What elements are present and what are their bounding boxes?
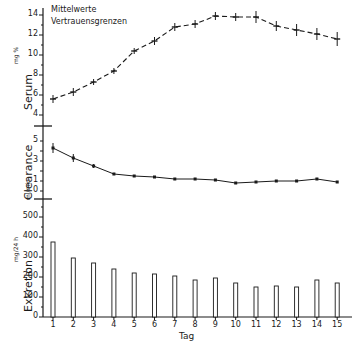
x-tick-label: 14 (309, 320, 325, 329)
exkretion-bar (295, 287, 299, 317)
x-tick-label: 9 (207, 320, 223, 329)
y-tick-label: 400 (16, 231, 38, 240)
serum-line (53, 16, 337, 99)
legend-means: Mittelwerte (51, 4, 127, 16)
exkretion-bar (51, 242, 55, 317)
y-tick-label: 12 (16, 29, 38, 38)
y-tick-label: 100 (16, 291, 38, 300)
legend: Mittelwerte Vertrauensgrenzen (51, 4, 127, 28)
exkretion-bar (254, 287, 258, 317)
y-tick-label: 300 (16, 251, 38, 260)
legend-confidence-limits: Vertrauensgrenzen (51, 16, 127, 28)
y-tick-label: 200 (16, 271, 38, 280)
x-tick-label: 3 (86, 320, 102, 329)
exkretion-bar (71, 258, 75, 317)
y-tick-label: 5 (16, 135, 38, 144)
exkretion-bar (153, 274, 157, 317)
x-tick-label: 8 (187, 320, 203, 329)
exkretion-bar (315, 280, 319, 317)
y-tick-label: 3 (16, 155, 38, 164)
y-tick-label: 0 (16, 311, 38, 320)
y-tick-label: 10 (16, 49, 38, 58)
exkretion-bar (112, 269, 116, 317)
x-tick-label: 15 (329, 320, 345, 329)
x-tick-label: 5 (126, 320, 142, 329)
x-tick-label: 1 (45, 320, 61, 329)
chart-canvas (0, 0, 357, 348)
y-tick-label: 500 (16, 211, 38, 220)
y-tick-label: 4 (16, 109, 38, 118)
x-tick-label: 6 (147, 320, 163, 329)
y-tick-label: 6 (16, 89, 38, 98)
exkretion-bar (274, 286, 278, 317)
x-tick-label: 12 (268, 320, 284, 329)
y-tick-label: 8 (16, 69, 38, 78)
x-tick-label: 7 (167, 320, 183, 329)
x-tick-label: 10 (228, 320, 244, 329)
exkretion-bar (92, 263, 96, 317)
x-axis-label: Tag (179, 331, 194, 341)
x-tick-label: 2 (65, 320, 81, 329)
exkretion-bar (193, 280, 197, 317)
y-tick-label: 14 (16, 9, 38, 18)
exkretion-bar (173, 276, 177, 317)
y-tick-label: 1 (16, 175, 38, 184)
exkretion-axis-label: Exkretion (22, 260, 35, 312)
exkretion-bar (213, 278, 217, 317)
exkretion-bar (335, 283, 339, 317)
exkretion-bar (132, 273, 136, 317)
exkretion-bar (234, 283, 238, 317)
x-tick-label: 11 (248, 320, 264, 329)
x-tick-label: 4 (106, 320, 122, 329)
x-tick-label: 13 (289, 320, 305, 329)
y-tick-label: 0 (16, 185, 38, 194)
